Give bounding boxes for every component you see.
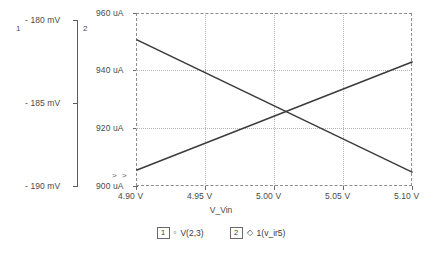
chart-root: 1 - 180 mV - 185 mV - 190 mV 2 960 uA 94…: [0, 0, 442, 255]
x-axis-tick-label-5-00: 5.00 V: [256, 191, 281, 201]
diamond-marker-icon: ◇: [247, 229, 253, 237]
legend-item-v-2-3[interactable]: 1 ▫ V(2,3): [157, 227, 204, 239]
x-axis-tick-label-5-10: 5.10 V: [394, 191, 419, 201]
legend-item-1-v-ir5[interactable]: 2 ◇ 1(v_ir5): [230, 227, 286, 239]
square-marker-icon: ▫: [174, 229, 177, 237]
overflow-marker: > >: [112, 171, 128, 180]
x-axis-tick-label-4-90: 4.90 V: [118, 191, 143, 201]
legend-index-1: 1: [157, 227, 170, 239]
series-line-v-2-3: [137, 40, 412, 172]
series-layer: [0, 0, 442, 255]
x-axis-tick-label-4-95: 4.95 V: [187, 191, 212, 201]
legend-label-1-v-ir5: 1(v_ir5): [257, 228, 286, 238]
series-line-1-v-ir5: [137, 62, 412, 170]
x-axis-title: V_Vin: [0, 205, 442, 215]
legend-index-2: 2: [230, 227, 243, 239]
legend-label-v-2-3: V(2,3): [180, 228, 203, 238]
x-axis-tick-label-5-05: 5.05 V: [325, 191, 350, 201]
chart-legend: 1 ▫ V(2,3) 2 ◇ 1(v_ir5): [0, 227, 442, 239]
